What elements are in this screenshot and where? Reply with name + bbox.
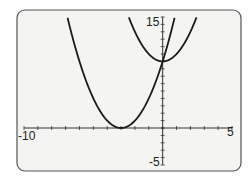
screen-frame xyxy=(17,10,241,171)
x-max-label: 5 xyxy=(227,125,234,139)
y-max-label: 15 xyxy=(146,15,160,29)
x-min-label: -10 xyxy=(18,129,36,143)
y-min-label: -5 xyxy=(149,155,160,169)
graph-screen: -10 5 15 -5 xyxy=(0,0,252,182)
